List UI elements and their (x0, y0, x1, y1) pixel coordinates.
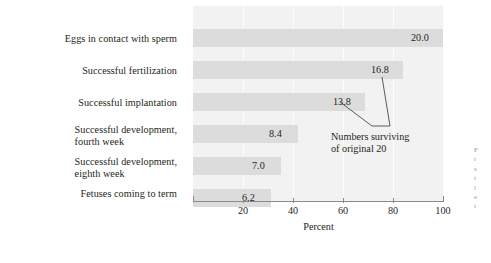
category-label-line: Successful development, (75, 156, 177, 167)
margin-caption-line: t (474, 174, 491, 183)
category-label-line: Successful fertilization (82, 65, 177, 76)
category-label: Fetuses coming to term (81, 188, 177, 200)
x-axis-tick-label: 80 (378, 205, 408, 216)
x-axis-tick (293, 198, 294, 203)
margin-caption-text: F r s t l e t (474, 146, 491, 242)
category-label-line: Eggs in contact with sperm (65, 33, 177, 44)
x-axis-tick (393, 198, 394, 203)
category-label: Eggs in contact with sperm (65, 33, 177, 45)
annotation-text: Numbers surviving of original 20 (331, 131, 409, 155)
margin-caption-line: F (474, 146, 491, 155)
margin-caption-line: t (474, 202, 491, 211)
x-axis-tick-label: 60 (328, 205, 358, 216)
x-axis-line (193, 201, 444, 202)
bar (193, 157, 281, 175)
category-label: Successful development, fourth week (75, 124, 177, 147)
category-label-line: eighth week (75, 168, 177, 180)
category-label: Successful implantation (78, 97, 177, 109)
bar (193, 125, 298, 143)
bar-value-label: 16.8 (371, 61, 389, 79)
bar-value-label: 8.4 (269, 125, 282, 143)
annotation-line: Numbers surviving (331, 131, 409, 142)
x-axis-title: Percent (193, 221, 444, 232)
category-label-line: Successful implantation (78, 97, 177, 108)
x-axis-tick (243, 198, 244, 203)
category-label-line: fourth week (75, 136, 177, 148)
x-axis-tick-label: 100 (428, 205, 458, 216)
category-label: Successful development, eighth week (75, 156, 177, 179)
plot-area: 20.0 16.8 13.8 8.4 7.0 6.2 (193, 6, 443, 201)
bar (193, 29, 443, 47)
category-label-line: Fetuses coming to term (81, 188, 177, 199)
category-label-column: Eggs in contact with sperm Successful fe… (0, 6, 185, 201)
category-label: Successful fertilization (82, 65, 177, 77)
bar-value-label: 20.0 (411, 29, 429, 47)
bar-value-label: 13.8 (333, 93, 351, 111)
x-axis-tick-label: 20 (228, 205, 258, 216)
margin-caption-line: r (474, 155, 491, 164)
x-axis-start-cap (193, 196, 194, 202)
x-axis-tick (343, 198, 344, 203)
bar-chart-figure: Eggs in contact with sperm Successful fe… (0, 0, 491, 263)
margin-caption-line: l (474, 184, 491, 193)
annotation-line: of original 20 (331, 143, 409, 155)
bar-value-label: 7.0 (252, 157, 265, 175)
margin-caption-line: e (474, 193, 491, 202)
margin-caption-line: s (474, 165, 491, 174)
x-axis-tick-label: 40 (278, 205, 308, 216)
x-axis-end-cap (443, 196, 444, 202)
category-label-line: Successful development, (75, 124, 177, 135)
